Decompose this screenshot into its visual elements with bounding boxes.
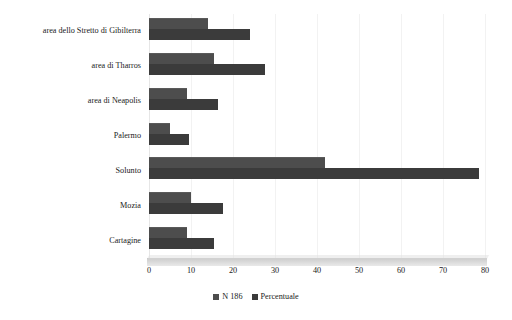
bar-percentuale xyxy=(149,168,479,179)
bar-percentuale xyxy=(149,203,223,214)
bar-percentuale xyxy=(149,29,250,40)
category-label: Mozia xyxy=(0,201,141,211)
legend-swatch-icon xyxy=(213,294,219,300)
legend-swatch-icon xyxy=(252,294,258,300)
category-label: area dello Stretto di Gibilterra xyxy=(0,26,141,36)
x-tick-label: 30 xyxy=(271,266,279,275)
gridline-80 xyxy=(485,14,486,258)
bar-percentuale xyxy=(149,134,189,145)
bar-group xyxy=(149,84,485,119)
x-tick-label: 40 xyxy=(313,266,321,275)
x-tick-label: 70 xyxy=(439,266,447,275)
x-axis-tick-labels: 01020304050607080 xyxy=(149,266,485,280)
bar-group xyxy=(149,188,485,223)
x-tick-label: 50 xyxy=(355,266,363,275)
x-tick-label: 10 xyxy=(187,266,195,275)
category-label: Cartagine xyxy=(0,236,141,246)
x-tick-label: 0 xyxy=(147,266,151,275)
bar-chart: area dello Stretto di Gibilterraarea di … xyxy=(0,0,512,320)
bar-percentuale xyxy=(149,64,265,75)
bar-group xyxy=(149,153,485,188)
bar-percentuale xyxy=(149,238,214,249)
legend-item[interactable]: N 186 xyxy=(213,292,242,301)
bar-group xyxy=(149,119,485,154)
legend-label: N 186 xyxy=(222,292,242,301)
bar-group xyxy=(149,14,485,49)
category-axis-labels: area dello Stretto di Gibilterraarea di … xyxy=(0,14,145,258)
x-axis-band xyxy=(147,258,487,266)
bar-group xyxy=(149,49,485,84)
category-label: Solunto xyxy=(0,166,141,176)
category-label: area di Tharros xyxy=(0,61,141,71)
legend-label: Percentuale xyxy=(261,292,299,301)
chart-legend: N 186Percentuale xyxy=(0,292,512,301)
bar-group xyxy=(149,223,485,258)
category-label: Palermo xyxy=(0,131,141,141)
legend-item[interactable]: Percentuale xyxy=(252,292,299,301)
x-tick-label: 80 xyxy=(481,266,489,275)
bar-percentuale xyxy=(149,99,218,110)
category-label: area di Neapolis xyxy=(0,96,141,106)
x-tick-label: 60 xyxy=(397,266,405,275)
x-tick-label: 20 xyxy=(229,266,237,275)
plot-area xyxy=(149,14,485,258)
